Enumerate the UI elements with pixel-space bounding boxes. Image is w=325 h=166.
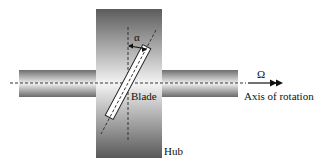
blade-label: Blade [131,90,157,102]
omega-arrowhead-1 [270,80,277,87]
omega-label: Ω [257,68,265,80]
axis-of-rotation-label: Axis of rotation [244,90,314,102]
alpha-label: α [134,31,140,43]
omega-arrowhead-2 [276,80,283,87]
hub-label: Hub [164,145,183,157]
hub-blade-diagram: α Ω Axis of rotation Blade Hub [0,0,325,166]
